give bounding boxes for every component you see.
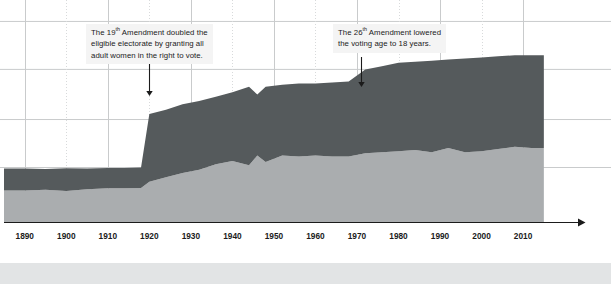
x-tick-label-2000: 2000 bbox=[472, 231, 490, 241]
x-tick-label-1920: 1920 bbox=[140, 231, 158, 241]
x-tick-label-1980: 1980 bbox=[389, 231, 407, 241]
annotation-19th-line-3: adult women in the right to vote. bbox=[91, 50, 208, 61]
x-tick-label-2010: 2010 bbox=[514, 231, 532, 241]
annotation-19th-line-2: eligible electorate by granting all bbox=[91, 38, 208, 49]
annotation-arrow-1 bbox=[146, 62, 152, 96]
x-tick-label-1890: 1890 bbox=[16, 231, 34, 241]
x-tick-label-1940: 1940 bbox=[223, 231, 241, 241]
annotation-19th-amendment: The 19th Amendment doubled the eligible … bbox=[86, 24, 213, 64]
annotation-26th-amendment: The 26th Amendment lowered the voting ag… bbox=[333, 24, 446, 53]
x-tick-label-1900: 1900 bbox=[57, 231, 75, 241]
x-tick-label-1910: 1910 bbox=[99, 231, 117, 241]
x-tick-label-1960: 1960 bbox=[306, 231, 324, 241]
x-tick-label-1950: 1950 bbox=[265, 231, 283, 241]
x-tick-label-1990: 1990 bbox=[431, 231, 449, 241]
x-tick-label-1930: 1930 bbox=[182, 231, 200, 241]
annotation-19th-line-1: The 19th Amendment doubled the bbox=[91, 27, 208, 38]
annotation-26th-line-2: the voting age to 18 years. bbox=[338, 38, 441, 49]
x-tick-label-1970: 1970 bbox=[348, 231, 366, 241]
voter-turnout-chart: The 19th Amendment doubled the eligible … bbox=[0, 0, 611, 284]
annotation-26th-line-1: The 26th Amendment lowered bbox=[338, 27, 441, 38]
bottom-band bbox=[0, 263, 611, 284]
